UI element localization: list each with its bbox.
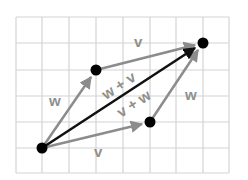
label-w-left: w [48,92,61,109]
label-w-right: w [184,86,197,103]
sum-tip-dot [198,38,209,49]
label-v-bottom: v [94,143,103,160]
w-tip-dot [91,65,102,76]
label-v-top: v [134,33,143,50]
vector-sum [42,48,195,148]
v-tip-dot [145,117,156,128]
origin-dot [37,143,48,154]
vector-addition-diagram: w v v w w + v v + w [0,0,248,180]
